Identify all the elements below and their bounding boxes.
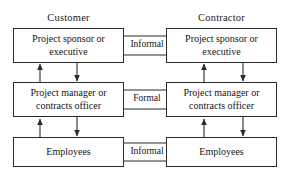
node-label-line-2: executive xyxy=(32,46,105,59)
node-contractor-project-manager: Project manager or contracts officer xyxy=(166,82,277,117)
edge-label-formal-manager-row: Formal xyxy=(128,93,166,103)
node-label-line-1: Project sponsor or xyxy=(32,33,105,46)
node-label-line-1: Project sponsor or xyxy=(185,33,258,46)
node-contractor-employees-label: Employees xyxy=(199,146,243,159)
node-contractor-project-sponsor-label: Project sponsor or executive xyxy=(185,33,258,58)
node-label-line-2: executive xyxy=(185,46,258,59)
node-customer-employees: Employees xyxy=(13,137,124,167)
node-customer-project-manager: Project manager or contracts officer xyxy=(13,82,124,117)
node-label-line-2: contracts officer xyxy=(30,100,106,113)
node-customer-project-sponsor-label: Project sponsor or executive xyxy=(32,33,105,58)
node-customer-project-sponsor: Project sponsor or executive xyxy=(13,28,124,63)
column-heading-customer: Customer xyxy=(13,12,124,23)
node-label-line-1: Project manager or xyxy=(30,87,106,100)
node-contractor-employees: Employees xyxy=(166,137,277,167)
node-label-line-2: contracts officer xyxy=(183,100,259,113)
node-customer-employees-label: Employees xyxy=(46,146,90,159)
communication-diagram: Customer Contractor Project sponsor or e… xyxy=(0,0,293,175)
node-contractor-project-manager-label: Project manager or contracts officer xyxy=(183,87,259,112)
node-label-line-1: Project manager or xyxy=(183,87,259,100)
edge-label-informal-sponsor-row: Informal xyxy=(128,39,166,49)
node-customer-project-manager-label: Project manager or contracts officer xyxy=(30,87,106,112)
edge-label-informal-employees-row: Informal xyxy=(128,146,166,156)
column-heading-contractor: Contractor xyxy=(166,12,277,23)
node-contractor-project-sponsor: Project sponsor or executive xyxy=(166,28,277,63)
